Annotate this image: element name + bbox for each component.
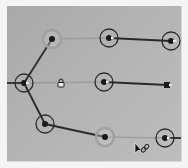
node-tip-arrow bbox=[169, 84, 173, 87]
links-layer bbox=[7, 38, 181, 138]
node-A[interactable] bbox=[43, 30, 61, 48]
node-tip-arrow bbox=[173, 40, 177, 43]
node-dot bbox=[49, 36, 55, 42]
mouse-cursor bbox=[135, 143, 150, 153]
node-tip-arrow bbox=[167, 137, 171, 140]
node-dot bbox=[102, 134, 108, 140]
diagram-graph bbox=[7, 6, 181, 161]
icons-layer bbox=[58, 79, 64, 87]
cursor-arrow-icon bbox=[135, 143, 142, 153]
node-I[interactable] bbox=[96, 128, 114, 146]
link-chain-icon bbox=[141, 144, 150, 153]
nodes-layer bbox=[15, 29, 180, 147]
lock-icon[interactable] bbox=[58, 79, 64, 87]
node-dot bbox=[42, 121, 48, 127]
diagram-canvas[interactable] bbox=[7, 6, 182, 162]
node-tip-arrow bbox=[26, 82, 30, 85]
node-G[interactable] bbox=[164, 82, 173, 88]
node-H[interactable] bbox=[36, 115, 54, 133]
link-D-H[interactable] bbox=[24, 83, 45, 124]
